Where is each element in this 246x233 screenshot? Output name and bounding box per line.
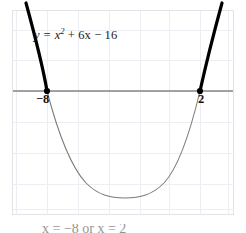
x-tick-label-root-right: 2: [198, 92, 204, 107]
caption-text: x = −8 or x = 2: [42, 224, 126, 233]
x-tick-label-root-left: −8: [36, 92, 49, 107]
equation-suffix: + 6x − 16: [65, 28, 118, 42]
equation-prefix: y = x: [34, 28, 60, 42]
quadratic-graph-figure: y = x2 + 6x − 16 −8 2 x = −8 or x = 2: [0, 0, 246, 233]
caption-clip: x = −8 or x = 2: [0, 224, 246, 233]
equation-label: y = x2 + 6x − 16: [34, 28, 117, 43]
